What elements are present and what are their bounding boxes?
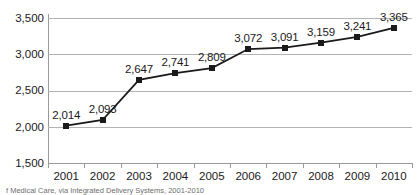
x-axis-tick: [412, 163, 413, 168]
x-tick-label: 2005: [199, 170, 225, 182]
data-point-label: 3,241: [344, 20, 372, 32]
y-axis-labels: 3,500 3,000 2,500 2,000 1,500: [0, 0, 44, 195]
x-axis-tick: [230, 163, 231, 168]
data-point-label: 2,093: [89, 103, 117, 115]
data-point-marker: [282, 45, 288, 51]
x-tick-label: 2009: [345, 170, 371, 182]
x-tick-label: 2001: [53, 170, 79, 182]
data-point-label: 2,741: [162, 56, 190, 68]
x-axis-tick: [121, 163, 122, 168]
data-point-marker: [100, 117, 106, 123]
data-point-marker: [245, 46, 251, 52]
x-axis-tick: [194, 163, 195, 168]
figure-caption: f Medical Care, via Integrated Delivery …: [6, 186, 419, 195]
data-point-marker: [209, 65, 215, 71]
x-axis-tick: [266, 163, 267, 168]
y-tick-label: 3,500: [0, 13, 44, 25]
plot-area: [48, 18, 412, 163]
y-tick-label: 2,000: [0, 122, 44, 134]
data-point-marker: [354, 34, 360, 40]
data-point-label: 3,365: [380, 11, 408, 23]
x-tick-label: 2002: [90, 170, 116, 182]
x-tick-label: 2010: [381, 170, 407, 182]
data-point-marker: [172, 70, 178, 76]
x-axis-tick: [376, 163, 377, 168]
x-tick-label: 2004: [163, 170, 189, 182]
y-tick-label: 3,000: [0, 49, 44, 61]
chart-figure: 3,500 3,000 2,500 2,000 1,500 2,0142,093…: [0, 0, 419, 195]
data-point-label: 3,159: [307, 26, 335, 38]
data-point-marker: [391, 25, 397, 31]
x-tick-label: 2007: [272, 170, 298, 182]
x-axis-tick: [303, 163, 304, 168]
x-tick-label: 2008: [308, 170, 334, 182]
data-point-label: 2,014: [52, 109, 80, 121]
data-point-marker: [136, 77, 142, 83]
data-point-label: 2,809: [198, 51, 226, 63]
x-axis-tick: [84, 163, 85, 168]
y-tick-label: 1,500: [0, 158, 44, 170]
data-point-marker: [318, 40, 324, 46]
y-tick-label: 2,500: [0, 85, 44, 97]
data-point-label: 2,647: [125, 63, 153, 75]
data-point-label: 3,072: [234, 32, 262, 44]
x-tick-label: 2003: [126, 170, 152, 182]
x-axis-tick: [339, 163, 340, 168]
x-axis-tick: [157, 163, 158, 168]
x-axis-tick: [48, 163, 49, 168]
x-axis-labels: 2001200220032004200520062007200820092010: [0, 170, 419, 186]
data-point-label: 3,091: [271, 31, 299, 43]
data-point-marker: [63, 123, 69, 129]
x-tick-label: 2006: [235, 170, 261, 182]
